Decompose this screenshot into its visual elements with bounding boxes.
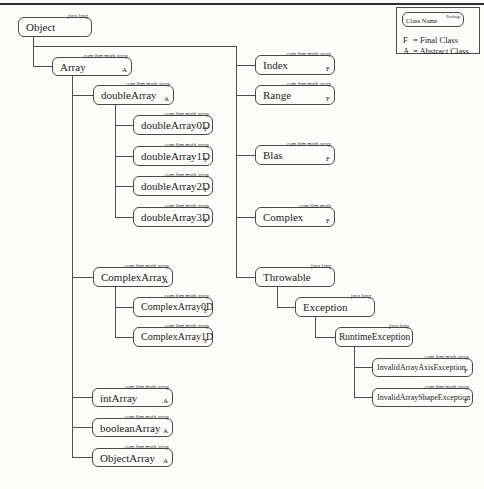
connector-line: [33, 37, 34, 66]
package-label: java.lang: [311, 264, 331, 270]
class-name: InvalidArrayAxisException: [377, 364, 466, 372]
package-label: java.lang: [351, 294, 371, 300]
class-name: doubleArray3D: [141, 212, 210, 223]
connector-line: [115, 217, 133, 218]
connector-line: [277, 287, 278, 307]
package-label: com.ibm.math.array: [125, 264, 169, 270]
connector-line: [115, 125, 133, 126]
legend-final-class-row: F= Final Class: [403, 36, 458, 45]
connector-line: [236, 155, 255, 156]
package-label: com.ibm.math.array: [125, 415, 169, 421]
legend-final-text: = Final Class: [413, 35, 458, 45]
package-label: com.ibm.math.array: [287, 142, 331, 148]
connector-line: [72, 277, 93, 278]
class-box-complex: com.ibm.math Complex F: [255, 207, 335, 227]
connector-line: [236, 217, 255, 218]
legend-abstract-letter: A: [403, 47, 413, 56]
connector-line: [236, 65, 255, 66]
class-box-range: com.ibm.math.array Range F: [255, 85, 335, 105]
class-box-runtimeexception: java.lang RuntimeException: [335, 327, 413, 347]
connector-line: [354, 367, 372, 368]
package-label: com.ibm.math.array: [126, 82, 170, 88]
legend-package-label: Package: [446, 14, 461, 19]
class-box-exception: java.lang Exception: [295, 297, 375, 317]
class-box-objectarray: com.ibm.math.array ObjectArray A: [92, 448, 173, 467]
class-name: Blas: [263, 150, 283, 161]
connector-line: [315, 317, 316, 337]
class-box-blas: com.ibm.math.array Blas F: [255, 145, 335, 165]
legend-abstract-class-row: A= Abstract Class: [403, 47, 469, 56]
class-name: InvalidArrayShapeException: [377, 394, 470, 402]
connector-line: [72, 76, 73, 457]
legend-final-letter: F: [403, 36, 413, 45]
modifier-label: F: [204, 157, 208, 164]
connector-line: [277, 307, 295, 308]
connector-line: [115, 337, 133, 338]
connector-line: [33, 46, 236, 47]
connector-line: [72, 95, 93, 96]
modifier-label: F: [204, 308, 208, 315]
class-box-index: com.ibm.math.array Index F: [255, 55, 335, 75]
class-name: Exception: [303, 302, 348, 313]
package-label: com.ibm.math.array: [165, 294, 209, 300]
class-box-array: com.ibm.math.array Array A: [52, 57, 132, 76]
class-box-doublearray1d: com.ibm.math.array doubleArray1D F: [133, 146, 213, 166]
connector-line: [115, 105, 116, 217]
modifier-label: F: [204, 126, 208, 133]
class-name: Complex: [263, 212, 303, 223]
package-label: com.ibm.math.array: [425, 355, 469, 361]
package-label: java.lang: [68, 14, 88, 19]
modifier-label: F: [464, 398, 468, 405]
legend: Class Name Package F= Final Class A= Abs…: [396, 7, 480, 54]
class-name: doubleArray: [101, 90, 157, 101]
modifier-label: F: [326, 156, 330, 163]
class-name: Object: [26, 22, 55, 33]
connector-line: [354, 347, 355, 397]
connector-line: [33, 66, 52, 67]
class-box-complexarray1d: com.ibm.math.array ComplexArray1D F: [133, 327, 213, 347]
connector-line: [115, 186, 133, 187]
class-box-doublearray2d: com.ibm.math.array doubleArray2D F: [133, 176, 213, 196]
class-name: doubleArray1D: [141, 151, 210, 162]
class-name: doubleArray0D: [141, 120, 210, 131]
modifier-label: A: [122, 67, 127, 74]
class-box-throwable: java.lang Throwable: [255, 267, 335, 287]
class-box-doublearray3d: com.ibm.math.array doubleArray3D F: [133, 207, 213, 227]
class-box-complexarray: com.ibm.math.array ComplexArray A: [93, 267, 173, 287]
class-box-object: java.lang Object: [18, 17, 92, 37]
package-label: com.ibm.math.array: [125, 385, 169, 391]
modifier-label: A: [164, 96, 169, 103]
class-name: Index: [263, 60, 288, 71]
class-name: RuntimeException: [339, 333, 410, 343]
class-name: doubleArray2D: [141, 181, 210, 192]
modifier-label: F: [326, 218, 330, 225]
package-label: com.ibm.math.array: [287, 52, 331, 58]
modifier-label: F: [204, 218, 208, 225]
modifier-label: A: [163, 398, 168, 405]
class-hierarchy-diagram: java.lang Object com.ibm.math.array Arra…: [0, 0, 484, 489]
modifier-label: F: [464, 368, 468, 375]
package-label: com.ibm.math.array: [287, 82, 331, 88]
class-name: booleanArray: [100, 422, 160, 433]
class-name: ComplexArray: [101, 272, 167, 283]
connector-line: [115, 156, 133, 157]
class-box-invalidarrayaxisexception: com.ibm.math.array InvalidArrayAxisExcep…: [372, 358, 473, 377]
package-label: com.ibm.math: [299, 204, 331, 210]
package-label: com.ibm.math.array: [125, 445, 169, 451]
legend-class-name-label: Class Name: [406, 16, 437, 23]
connector-line: [236, 277, 255, 278]
package-label: com.ibm.math.array: [165, 173, 209, 179]
class-name: Throwable: [263, 272, 311, 283]
class-name: ObjectArray: [100, 452, 155, 463]
package-label: com.ibm.math.array: [165, 324, 209, 330]
class-box-complexarray0d: com.ibm.math.array ComplexArray0D F: [133, 297, 213, 317]
package-label: java.lang: [389, 324, 409, 330]
connector-line: [354, 397, 372, 398]
modifier-label: A: [163, 428, 168, 435]
connector-line: [236, 46, 237, 277]
legend-abstract-text: = Abstract Class: [413, 46, 469, 56]
modifier-label: A: [163, 278, 168, 285]
connector-line: [315, 337, 335, 338]
connector-line: [72, 427, 92, 428]
modifier-label: F: [326, 96, 330, 103]
